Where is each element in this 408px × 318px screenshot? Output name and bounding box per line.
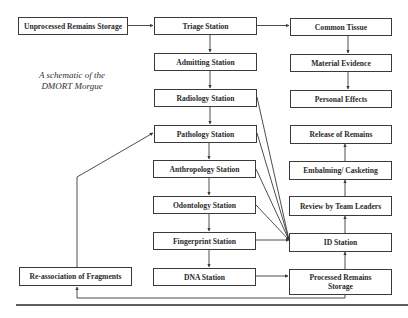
edge-pathology-id	[257, 133, 289, 240]
node-common-tissue: Common Tissue	[290, 18, 392, 36]
dmort-morgue-schematic: A schematic of the DMORT Morgue Unproces…	[0, 0, 408, 318]
node-id-station: ID Station	[289, 233, 392, 252]
edge-reassociation-pathology	[77, 133, 153, 267]
node-unprocessed-remains-storage: Unprocessed Remains Storage	[18, 17, 128, 35]
node-reassociation-of-fragments: Re-association of Fragments	[19, 267, 132, 286]
node-fingerprint-station: Fingerprint Station	[153, 232, 256, 250]
node-radiology-station: Radiology Station	[154, 89, 257, 107]
edge-anthropology-id	[256, 169, 289, 240]
node-processed-remains-storage: Processed Remains Storage	[289, 269, 392, 295]
node-release-of-remains: Release of Remains	[290, 125, 392, 144]
diagram-caption: A schematic of the DMORT Morgue	[22, 70, 122, 92]
caption-line-2: DMORT Morgue	[22, 81, 122, 92]
node-review-by-team-leaders: Review by Team Leaders	[289, 196, 392, 216]
node-admitting-station: Admitting Station	[154, 53, 257, 71]
edge-radiology-id	[257, 97, 289, 240]
node-odontology-station: Odontology Station	[153, 196, 256, 214]
node-embalming-casketing: Embalming/ Casketing	[289, 161, 392, 180]
node-dna-station: DNA Station	[153, 268, 256, 286]
node-anthropology-station: Anthropology Station	[153, 160, 256, 178]
node-material-evidence: Material Evidence	[290, 54, 392, 72]
caption-line-1: A schematic of the	[22, 70, 122, 81]
node-personal-effects: Personal Effects	[290, 90, 392, 108]
node-triage-station: Triage Station	[154, 17, 257, 35]
node-pathology-station: Pathology Station	[154, 125, 257, 143]
